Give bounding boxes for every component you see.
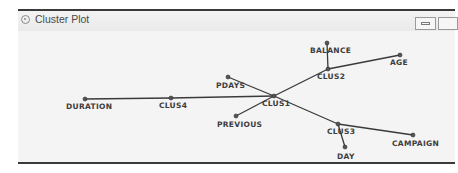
node-previous[interactable]	[234, 114, 238, 118]
edges	[85, 43, 413, 147]
edge-clus1-clus4	[171, 96, 274, 98]
label-campaign: CAMPAIGN	[392, 139, 439, 148]
label-duration: DURATION	[66, 102, 112, 111]
node-duration[interactable]	[83, 97, 87, 101]
label-age: AGE	[390, 58, 408, 67]
label-clus2: CLUS2	[317, 72, 345, 81]
node-age[interactable]	[398, 53, 402, 57]
node-clus3[interactable]	[336, 122, 340, 126]
nodes	[83, 41, 415, 149]
node-clus2[interactable]	[326, 67, 330, 71]
label-clus4: CLUS4	[159, 101, 187, 110]
labels: CLUS1CLUS2CLUS3CLUS4BALANCEAGEPDAYSPREVI…	[66, 46, 439, 161]
label-day: DAY	[337, 152, 355, 161]
node-pdays[interactable]	[226, 75, 230, 79]
label-clus1: CLUS1	[262, 99, 290, 108]
label-previous: PREVIOUS	[217, 120, 262, 129]
node-balance[interactable]	[325, 41, 329, 45]
edge-clus4-duration	[85, 98, 171, 99]
node-campaign[interactable]	[411, 133, 415, 137]
label-pdays: PDAYS	[216, 81, 245, 90]
label-clus3: CLUS3	[327, 127, 355, 136]
node-clus4[interactable]	[169, 96, 173, 100]
node-day[interactable]	[343, 145, 347, 149]
label-balance: BALANCE	[310, 46, 351, 55]
node-clus1[interactable]	[272, 94, 276, 98]
